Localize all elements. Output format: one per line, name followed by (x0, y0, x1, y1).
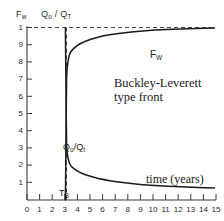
x-axis-ticks (27, 194, 216, 200)
annotation-fw-curve-label: FW (150, 49, 162, 61)
x-tick-label: 13 (185, 205, 197, 214)
x-tick-label: 15 (210, 205, 222, 214)
annotation-front-line-2: type front (114, 90, 201, 104)
x-tick-label: 8 (122, 205, 134, 214)
annotation-qt-sub: t (83, 146, 85, 153)
annotation-front-line-1: Buckley-Leverett (114, 76, 201, 90)
x-tick-label: 12 (172, 205, 184, 214)
x-tick-label: 2 (46, 205, 58, 214)
x-tick-label: 10 (147, 205, 159, 214)
x-tick-label: 6 (97, 205, 109, 214)
x-tick-label: 3 (59, 205, 71, 214)
y-tick-label: 9 (13, 40, 23, 49)
y-tick-label: 1 (13, 178, 23, 187)
y-tick-label: 1 (13, 23, 23, 32)
annotation-breakthrough-time: TB (59, 188, 69, 199)
series-qo-qt-curve (65, 28, 214, 188)
y-tick-label: 6 (13, 92, 23, 101)
annotation-qo-qt-curve-label: Qo/Qt (63, 142, 85, 153)
x-tick-label: 0 (21, 205, 33, 214)
annotation-tb-sub: B (65, 192, 69, 199)
x-tick-label: 14 (197, 205, 209, 214)
x-tick-label: 1 (34, 205, 46, 214)
x-tick-label: 4 (71, 205, 83, 214)
x-tick-label: 7 (109, 205, 121, 214)
x-tick-label: 9 (134, 205, 146, 214)
y-tick-label: 2 (13, 160, 23, 169)
y-axis-ticks (27, 28, 32, 183)
x-tick-label: 5 (84, 205, 96, 214)
plot-canvas (0, 0, 224, 221)
annotation-x-axis-caption: time (years) (146, 172, 204, 187)
x-tick-label: 11 (160, 205, 172, 214)
y-tick-label: 8 (13, 57, 23, 66)
y-tick-label: 5 (13, 109, 23, 118)
annotation-qo-main: Q (63, 142, 70, 152)
y-tick-label: 3 (13, 143, 23, 152)
buckley-leverett-chart: Fw Qo / QT (0, 0, 224, 221)
annotation-qo-slash: /Q (74, 142, 84, 152)
y-tick-label: 4 (13, 126, 23, 135)
annotation-front-description: Buckley-Leverett type front (114, 76, 201, 104)
annotation-fw-sub: W (156, 54, 162, 61)
y-tick-label: 7 (13, 74, 23, 83)
